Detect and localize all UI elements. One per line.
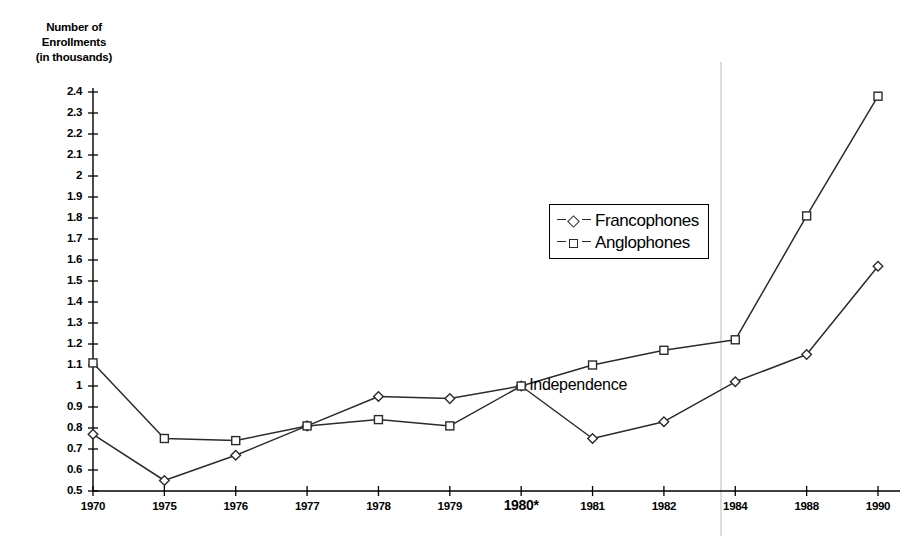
legend-item-label: Anglophones <box>595 234 690 251</box>
data-point-marker-square <box>160 435 168 443</box>
data-point-marker-diamond <box>659 417 669 427</box>
series-line-francophones <box>93 266 878 480</box>
y-axis-tick-label: 1 <box>36 379 82 391</box>
y-axis-tick-label: 1.8 <box>36 211 82 223</box>
data-point-marker-square <box>303 422 311 430</box>
y-axis-tick-label: 1.5 <box>36 274 82 286</box>
x-axis-tick-label: 1979 <box>415 500 485 512</box>
data-point-marker-square <box>446 422 454 430</box>
plot-area <box>0 0 905 536</box>
x-axis-tick-label: 1990 <box>843 500 905 512</box>
y-axis-tick-label: 1.2 <box>36 337 82 349</box>
data-point-marker-diamond <box>88 430 98 440</box>
y-axis-tick-label: 1.1 <box>36 358 82 370</box>
legend-item-anglophones[interactable]: Anglophones <box>557 231 699 253</box>
data-point-marker-square <box>89 359 97 367</box>
data-point-marker-square <box>232 437 240 445</box>
legend-diamond-marker-icon <box>557 213 591 227</box>
x-axis-tick-label: 1977 <box>272 500 342 512</box>
y-axis-tick-label: 1.7 <box>36 232 82 244</box>
data-point-marker-square <box>374 416 382 424</box>
data-point-marker-square <box>874 92 882 100</box>
data-point-marker-diamond <box>374 392 384 402</box>
y-axis-tick-label: 1.4 <box>36 295 82 307</box>
independence-annotation: Independence <box>529 376 627 394</box>
y-axis-tick-label: 2.2 <box>36 127 82 139</box>
data-point-marker-square <box>660 346 668 354</box>
data-point-marker-diamond <box>730 377 740 387</box>
y-axis-tick-label: 2 <box>36 169 82 181</box>
series-line-anglophones <box>93 96 878 440</box>
x-axis-tick-label: 1975 <box>129 500 199 512</box>
data-point-marker-diamond <box>160 476 170 486</box>
x-axis-tick-label: 1976 <box>201 500 271 512</box>
data-point-marker-diamond <box>445 394 455 404</box>
y-axis-tick-label: 0.5 <box>36 484 82 496</box>
x-axis-tick-label: 1988 <box>772 500 842 512</box>
y-axis-tick-label: 0.8 <box>36 421 82 433</box>
legend-square-marker-icon <box>557 235 591 249</box>
x-axis-tick-label: 1984 <box>700 500 770 512</box>
legend-item-francophones[interactable]: Francophones <box>557 209 699 231</box>
y-axis-tick-label: 2.3 <box>36 106 82 118</box>
x-axis-tick-label: 1978 <box>343 500 413 512</box>
x-axis-tick-label: 1980* <box>486 497 556 513</box>
data-point-marker-square <box>731 336 739 344</box>
data-point-marker-square <box>803 212 811 220</box>
y-axis-tick-label: 0.7 <box>36 442 82 454</box>
data-point-marker-diamond <box>231 451 241 461</box>
y-axis-tick-label: 2.1 <box>36 148 82 160</box>
data-point-marker-square <box>589 361 597 369</box>
enrollment-line-chart: Number of Enrollments (in thousands) 2.4… <box>0 0 905 536</box>
y-axis-tick-label: 1.6 <box>36 253 82 265</box>
y-axis-tick-label: 0.6 <box>36 463 82 475</box>
legend-item-label: Francophones <box>595 212 699 229</box>
x-axis-tick-label: 1982 <box>629 500 699 512</box>
y-axis-tick-label: 2.4 <box>36 85 82 97</box>
x-axis-tick-label: 1981 <box>558 500 628 512</box>
y-axis-tick-label: 1.3 <box>36 316 82 328</box>
chart-legend: FrancophonesAnglophones <box>549 204 709 259</box>
y-axis-tick-label: 0.9 <box>36 400 82 412</box>
data-point-marker-square <box>517 382 525 390</box>
y-axis-tick-label: 1.9 <box>36 190 82 202</box>
x-axis-tick-label: 1970 <box>58 500 128 512</box>
